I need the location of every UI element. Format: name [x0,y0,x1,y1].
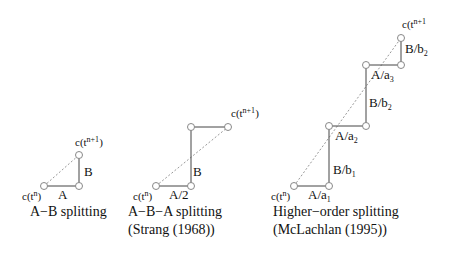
aba-caption-line2: (Strang (1968)) [128,222,215,238]
intermediate-node [363,123,370,130]
end-node [398,35,405,42]
start-label: c(tn) [133,189,153,203]
end-label: c(tn+1) [75,135,103,149]
start-label: c(tn) [271,189,291,203]
step-a-half-label: A/2 [169,187,189,202]
intermediate-node [76,183,83,190]
intermediate-node [188,124,195,131]
end-label: c(tn+1) [231,106,259,120]
higher-order-caption-line2: (McLachlan (1995)) [273,222,387,238]
step-b-b2-label: B/b2 [369,95,392,112]
start-label: c(tn) [22,189,42,203]
step-b-b1-label: B/b1 [333,162,356,179]
start-node [291,183,298,190]
ab-splitting-diagram: c(tn) A B c(tn+1) A−B splitting [22,135,107,219]
step-b-label: B [84,164,93,179]
step-a-a3-label: A/a3 [371,67,394,84]
direct-path-line [156,127,228,186]
end-label: c(tn+1 [402,17,426,31]
step-b-b2-label-2: B/b2 [405,41,428,58]
step-a-a2-label: A/a2 [335,128,358,145]
intermediate-node [398,62,405,69]
splitting-diagrams: c(tn) A B c(tn+1) A−B splitting c(tn) A/… [0,0,450,255]
step-a-label: A [58,187,68,202]
aba-splitting-diagram: c(tn) A/2 B c(tn+1) A−B−A splitting (Str… [128,106,259,238]
start-node [41,183,48,190]
intermediate-node [326,123,333,130]
direct-path-line [44,155,79,186]
end-node [76,152,83,159]
start-node [153,183,160,190]
higher-order-splitting-diagram: c(tn) A/a1 B/b1 A/a2 B/b2 A/a3 B/b2 c(tn… [271,17,428,238]
end-node [225,124,232,131]
higher-order-caption-line1: Higher−order splitting [273,204,399,219]
step-b-label: B [193,164,202,179]
intermediate-node [188,183,195,190]
ab-caption: A−B splitting [30,204,107,219]
aba-caption-line1: A−B−A splitting [128,204,222,219]
intermediate-node [363,62,370,69]
